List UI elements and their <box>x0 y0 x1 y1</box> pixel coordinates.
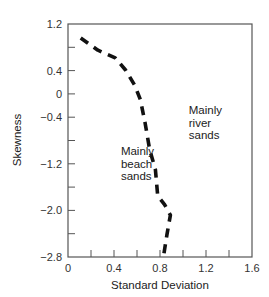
y-tick-label: 1.2 <box>47 18 62 30</box>
x-tick-label: 0 <box>65 262 71 274</box>
skewness-vs-std-chart: 00.40.81.21.61.20.40−0.4−1.2−2.0−2.8 Mai… <box>0 0 269 297</box>
y-tick-label: −1.2 <box>40 158 62 170</box>
x-tick-label: 0.4 <box>106 262 121 274</box>
x-tick-label: 1.2 <box>198 262 213 274</box>
river-sands-label: sands <box>189 129 220 141</box>
plot-frame <box>68 24 252 257</box>
y-tick-label: 0 <box>56 88 62 100</box>
y-axis-title: Skewness <box>11 114 23 167</box>
x-tick-label: 1.6 <box>244 262 259 274</box>
river-sands-label: Mainly <box>189 104 222 116</box>
y-tick-label: −0.4 <box>40 111 62 123</box>
x-tick-label: 0.8 <box>152 262 167 274</box>
x-axis-title: Standard Deviation <box>111 279 209 291</box>
plot-border <box>68 24 252 257</box>
y-tick-label: −2.8 <box>40 251 62 263</box>
y-tick-label: −2.0 <box>40 204 62 216</box>
river-sands-label: river <box>189 117 212 129</box>
y-tick-label: 0.4 <box>47 65 62 77</box>
beach-sands-label: beach <box>121 158 152 170</box>
beach-sands-label: Mainly <box>121 145 154 157</box>
beach-sands-label: sands <box>121 170 152 182</box>
annotations: MainlybeachsandsMainlyriversands <box>121 104 222 182</box>
